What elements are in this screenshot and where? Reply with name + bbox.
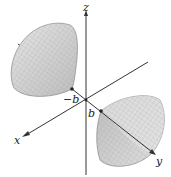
right-sheet <box>97 96 165 167</box>
y-axis-label: y <box>155 155 163 168</box>
vertex-neg-b <box>70 87 74 91</box>
origin <box>85 99 88 102</box>
left-sheet <box>11 23 77 96</box>
x-axis-label: x <box>14 134 21 147</box>
z-axis-label: z <box>82 1 89 14</box>
vertex-pos-b <box>99 109 103 113</box>
neg-b-label: −b <box>63 93 79 106</box>
diagram-canvas: z x y −b b <box>0 0 171 177</box>
x-axis-arrow <box>22 131 30 137</box>
pos-b-label: b <box>88 107 95 120</box>
hyperboloid-diagram: z x y −b b <box>0 0 171 177</box>
